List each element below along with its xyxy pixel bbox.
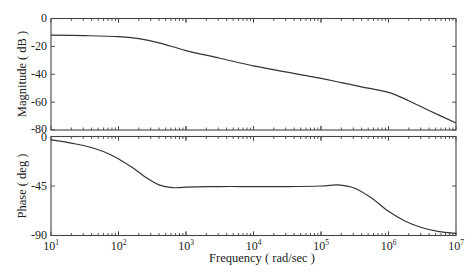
magnitude-panel: 0 -20 -40 -60 -80 Magnitude ( dB ) <box>15 11 456 136</box>
x-tick-label: 105 <box>313 238 329 253</box>
phase-y-axis-label: Phase ( deg ) <box>15 154 29 219</box>
x-tick-label: 101 <box>43 238 59 253</box>
phase-tick-label: -45 <box>31 179 47 193</box>
mag-tick-label: -20 <box>31 39 47 53</box>
x-tick-label: 103 <box>178 238 194 253</box>
x-tick-label: 107 <box>448 238 464 253</box>
x-axis-label: Frequency ( rad/sec ) <box>209 251 315 265</box>
mag-tick-label: 0 <box>41 11 47 25</box>
phase-panel: 0 -45 -90 Phase ( deg ) <box>15 130 456 242</box>
magnitude-curve <box>51 35 456 123</box>
x-tick-label: 102 <box>111 238 127 253</box>
magnitude-y-axis-label: Magnitude ( dB ) <box>15 31 29 117</box>
phase-curve <box>51 140 456 234</box>
phase-tick-label: 0 <box>41 130 47 144</box>
bode-plot-figure: 0 -20 -40 -60 -80 Magnitude ( dB ) 0 -45… <box>0 0 476 274</box>
mag-tick-label: -60 <box>31 95 47 109</box>
magnitude-ticks <box>51 19 456 131</box>
magnitude-axes-frame <box>51 19 456 131</box>
x-tick-label: 106 <box>381 238 397 253</box>
mag-tick-label: -40 <box>31 67 47 81</box>
